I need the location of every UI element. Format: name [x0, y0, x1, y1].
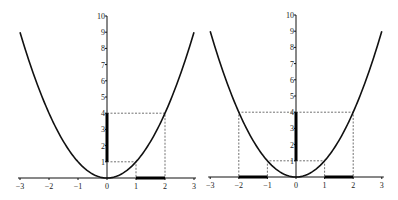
x-tick-label: 3: [380, 181, 384, 190]
x-tick-label: 2: [163, 182, 167, 191]
x-tick-label: −1: [263, 181, 272, 190]
y-tick-label: 7: [101, 61, 105, 70]
x-tick-label: −2: [235, 181, 244, 190]
x-tick-label: −3: [16, 182, 25, 191]
y-tick-label: 4: [290, 108, 294, 117]
x-tick-label: 0: [294, 181, 298, 190]
y-tick-label: 6: [290, 76, 294, 85]
y-tick-label: 2: [290, 141, 294, 150]
x-tick-label: −3: [206, 181, 215, 190]
y-tick-label: 8: [290, 43, 294, 52]
y-tick-label: 5: [101, 93, 105, 102]
y-tick-label: 4: [101, 109, 105, 118]
y-tick-label: 6: [101, 77, 105, 86]
y-tick-label: 3: [101, 125, 105, 134]
y-tick-label: 8: [101, 44, 105, 53]
y-tick-label: 10: [286, 11, 294, 20]
x-tick-label: 1: [323, 181, 327, 190]
x-tick-label: 1: [134, 182, 138, 191]
x-tick-label: −1: [74, 182, 83, 191]
x-tick-label: 3: [192, 182, 196, 191]
y-tick-label: 7: [290, 60, 294, 69]
y-tick-label: 1: [101, 158, 105, 167]
y-tick-label: 3: [290, 124, 294, 133]
y-tick-label: 10: [97, 12, 105, 21]
parabola-figure: −3−2−1012312345678910 −3−2−1012312345678…: [0, 0, 398, 200]
y-tick-label: 1: [290, 157, 294, 166]
guide-line: [107, 162, 136, 178]
y-tick-label: 9: [290, 27, 294, 36]
x-tick-label: 2: [351, 181, 355, 190]
y-tick-label: 9: [101, 28, 105, 37]
plot-right: −3−2−1012312345678910: [206, 11, 384, 190]
x-tick-label: 0: [105, 182, 109, 191]
y-tick-label: 5: [290, 92, 294, 101]
plot-left: −3−2−1012312345678910: [16, 12, 196, 191]
y-tick-label: 2: [101, 142, 105, 151]
guide-line: [296, 161, 325, 177]
x-tick-label: −2: [45, 182, 54, 191]
